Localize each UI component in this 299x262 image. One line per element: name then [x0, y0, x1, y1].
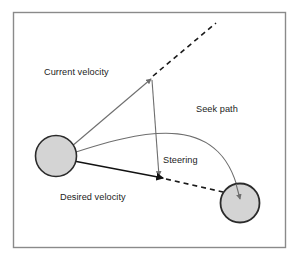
label-desired-velocity: Desired velocity	[60, 192, 126, 202]
seek-steering-diagram: Current velocity Seek path Steering Desi…	[0, 0, 299, 262]
agent-circle	[36, 136, 77, 177]
label-steering: Steering	[163, 155, 198, 165]
label-seek-path: Seek path	[196, 104, 238, 114]
label-current-velocity: Current velocity	[44, 67, 109, 77]
target-circle	[221, 184, 260, 223]
figure-root: Current velocity Seek path Steering Desi…	[0, 0, 299, 262]
